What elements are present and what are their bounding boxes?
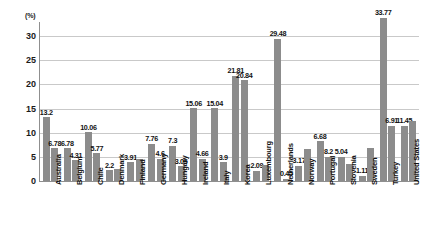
bar-value-label: 5.77 [90,144,103,153]
x-tick-label: Portugal [328,156,337,185]
x-tick-label: Finland [138,159,147,185]
x-tick-label: Netherlands [286,143,295,185]
bar-value-label: 10.06 [80,123,97,132]
x-tick-label: Australia [54,154,63,185]
y-tick-label-30: 30 [8,31,36,41]
bar-value-label: 2.2 [105,161,114,170]
bar-value-label: 20.84 [236,71,253,80]
y-axis-unit-label: (%) [25,12,35,19]
y-tick-label-5: 5 [8,152,36,162]
bar-value-label: 8.2 [324,147,333,156]
x-tick-label: Germany [159,153,168,185]
x-tick-label: Denmark [117,154,126,185]
bar [43,117,50,181]
x-tick-label: Korea [243,164,252,185]
x-tick-label: Ireland [201,162,210,186]
bar-value-label: 7.3 [168,136,177,145]
x-tick-label: Slovenia [349,155,358,185]
bar-value-label: 6.78 [48,139,61,148]
bar-value-label: 6.78 [61,139,74,148]
x-tick-label: Luxembourg [264,141,273,185]
bar-value-label: 4.66 [196,149,209,158]
bar-value-label: 15.06 [185,99,202,108]
bar-value-label: 6.68 [314,132,327,141]
plot-area: 13.26.786.784.3110.065.772.23.917.764.67… [40,24,419,181]
x-tick-label: Chile [96,167,105,185]
y-tick-label-20: 20 [8,79,36,89]
bar-chart: (%) 051015202530 13.26.786.784.3110.065.… [0,0,423,252]
x-tick-label: Italy [222,171,231,185]
bar [380,18,387,181]
x-tick-label: Belgium [75,156,84,185]
bar [85,132,92,181]
bar [253,171,260,181]
bar [274,39,281,181]
bar [232,76,239,181]
bar-value-label: 5.04 [335,147,348,156]
x-tick-label: Norway [307,159,316,185]
bar [338,157,345,181]
bar [317,141,324,181]
bar [127,162,134,181]
y-tick-label-15: 15 [8,104,36,114]
y-tick-label-0: 0 [8,176,36,186]
bar [148,144,155,181]
bar [359,176,366,181]
bar-value-label: 3.9 [219,153,228,162]
x-tick-label: United States [412,139,421,185]
bar-value-label: 15.04 [206,99,223,108]
y-tick-label-25: 25 [8,55,36,65]
bar-value-label: 29.48 [270,29,287,38]
bar [211,108,218,181]
x-tick-label: Hungary [180,156,189,185]
bar-value-label: 13.2 [40,108,53,117]
x-tick-label: Sweden [370,158,379,186]
bar [106,170,113,181]
bar [295,166,302,181]
bar-value-label: 7.76 [145,134,158,143]
bar [190,108,197,181]
bar [401,126,408,181]
x-tick-label: Turkey [391,162,400,185]
bar-value-label: 33.77 [375,8,392,17]
y-tick-label-10: 10 [8,128,36,138]
